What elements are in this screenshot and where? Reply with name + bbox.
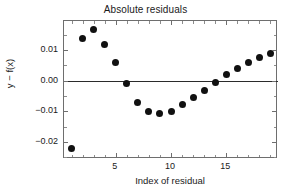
- y-axis-minor-tick: [274, 127, 277, 128]
- x-axis-minor-tick: [193, 155, 194, 158]
- y-axis-tick-label: 0.00: [40, 75, 58, 85]
- y-axis-minor-tick: [64, 157, 67, 158]
- y-axis-label: y − f(x): [4, 44, 15, 104]
- chart-title: Absolute residuals: [0, 4, 291, 15]
- x-axis-minor-tick: [83, 21, 84, 24]
- data-point: [156, 110, 163, 117]
- data-point: [68, 145, 75, 152]
- x-axis-minor-tick: [259, 155, 260, 158]
- x-axis-tick-label: 5: [112, 161, 117, 171]
- x-axis-minor-tick: [248, 155, 249, 158]
- data-point: [245, 59, 252, 66]
- x-axis-minor-tick: [270, 21, 271, 24]
- data-point: [123, 80, 130, 87]
- x-axis-tick-labels: 51015: [63, 161, 277, 173]
- data-point: [190, 94, 197, 101]
- x-axis-minor-tick: [72, 21, 73, 24]
- y-axis-tick-mark: [272, 111, 276, 112]
- data-point: [145, 108, 152, 115]
- y-axis-tick-mark: [64, 81, 68, 82]
- y-axis-minor-tick: [274, 96, 277, 97]
- chart-screenshot: Absolute residuals y − f(x) 0.010.00−0.0…: [0, 0, 291, 194]
- plot-inner: [64, 21, 276, 157]
- y-axis-tick-mark: [64, 142, 68, 143]
- x-axis-minor-tick: [248, 21, 249, 24]
- y-axis-tick-label: 0.01: [40, 44, 58, 54]
- y-axis-tick-mark: [272, 81, 276, 82]
- y-axis-tick-mark: [64, 111, 68, 112]
- x-axis-minor-tick: [127, 21, 128, 24]
- x-axis-tick-label: 15: [220, 161, 230, 171]
- x-axis-minor-tick: [105, 155, 106, 158]
- x-axis-minor-tick: [215, 21, 216, 24]
- data-point: [234, 65, 241, 72]
- x-axis-tick-mark: [226, 21, 227, 25]
- data-point: [101, 41, 108, 48]
- y-axis-minor-tick: [64, 35, 67, 36]
- x-axis-minor-tick: [160, 21, 161, 24]
- x-axis-label: Index of residual: [63, 175, 277, 186]
- y-axis-minor-tick: [274, 65, 277, 66]
- x-axis-minor-tick: [149, 155, 150, 158]
- x-axis-tick-label: 10: [165, 161, 175, 171]
- x-axis-minor-tick: [237, 155, 238, 158]
- data-point: [223, 71, 230, 78]
- x-axis-minor-tick: [105, 21, 106, 24]
- x-axis-minor-tick: [72, 155, 73, 158]
- y-axis-tick-labels: 0.010.00−0.01−0.02: [18, 20, 58, 158]
- x-axis-minor-tick: [182, 155, 183, 158]
- x-axis-tick-mark: [116, 21, 117, 25]
- y-axis-minor-tick: [274, 35, 277, 36]
- x-axis-minor-tick: [127, 155, 128, 158]
- data-point: [79, 35, 86, 42]
- x-axis-minor-tick: [138, 21, 139, 24]
- y-axis-minor-tick: [274, 157, 277, 158]
- data-point: [134, 99, 141, 106]
- y-axis-tick-label: −0.02: [35, 136, 58, 146]
- x-axis-tick-mark: [226, 153, 227, 157]
- x-axis-minor-tick: [215, 155, 216, 158]
- x-axis-minor-tick: [259, 21, 260, 24]
- data-point: [179, 101, 186, 108]
- data-point: [256, 54, 263, 61]
- x-axis-minor-tick: [160, 155, 161, 158]
- x-axis-minor-tick: [204, 155, 205, 158]
- x-axis-minor-tick: [182, 21, 183, 24]
- data-point: [168, 108, 175, 115]
- y-axis-tick-mark: [272, 50, 276, 51]
- x-axis-tick-mark: [171, 21, 172, 25]
- x-axis-minor-tick: [83, 155, 84, 158]
- data-point: [112, 59, 119, 66]
- x-axis-minor-tick: [270, 155, 271, 158]
- x-axis-minor-tick: [193, 21, 194, 24]
- x-axis-minor-tick: [204, 21, 205, 24]
- x-axis-tick-mark: [171, 153, 172, 157]
- data-point: [212, 79, 219, 86]
- y-axis-minor-tick: [64, 65, 67, 66]
- plot-area: [63, 20, 277, 158]
- x-axis-tick-mark: [116, 153, 117, 157]
- y-axis-tick-mark: [272, 142, 276, 143]
- x-axis-minor-tick: [94, 21, 95, 24]
- x-axis-minor-tick: [94, 155, 95, 158]
- zero-reference-line: [64, 81, 278, 82]
- data-point: [201, 87, 208, 94]
- y-axis-minor-tick: [64, 96, 67, 97]
- data-point: [90, 26, 97, 33]
- x-axis-minor-tick: [138, 155, 139, 158]
- x-axis-minor-tick: [149, 21, 150, 24]
- x-axis-minor-tick: [237, 21, 238, 24]
- y-axis-minor-tick: [64, 127, 67, 128]
- y-axis-tick-mark: [64, 50, 68, 51]
- y-axis-tick-label: −0.01: [35, 105, 58, 115]
